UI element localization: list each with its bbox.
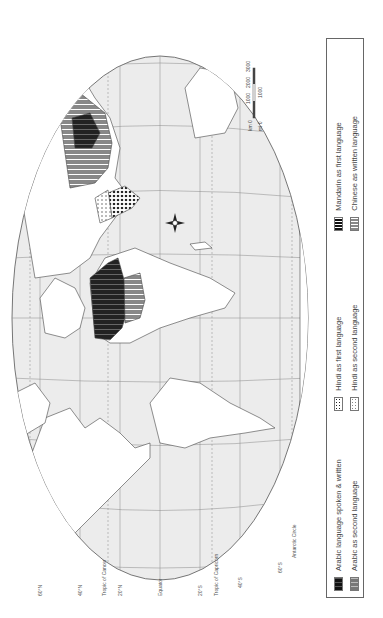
arabic-second-swatch-icon xyxy=(350,577,359,591)
scale-mi-label: mi 0 xyxy=(257,121,263,131)
scale-km-3000: 3000 xyxy=(245,61,251,72)
lat-label-20n: 20°N xyxy=(117,584,123,596)
mandarin-first-swatch-icon xyxy=(334,217,343,231)
legend-item-chinese-written: Chinese as written language xyxy=(346,50,362,230)
scale-km-2000: 2000 xyxy=(245,77,251,88)
legend-label: Arabic as second language xyxy=(350,481,359,571)
scale-km-label: km 0 xyxy=(247,120,253,131)
lat-label-60n: 60°N xyxy=(37,584,43,596)
lat-label-60s: 60°S xyxy=(277,561,283,573)
lat-label-equator: Equator xyxy=(157,578,163,596)
legend-item-arabic-second: Arabic as second language xyxy=(346,411,362,591)
legend-label: Arabic language spoken & written xyxy=(334,459,343,571)
chinese-written-swatch-icon xyxy=(350,217,359,231)
antarctica xyxy=(300,118,320,518)
legend-item-hindi-first: Hindi as first language xyxy=(330,231,346,411)
lat-label-40n: 40°N xyxy=(77,584,83,596)
lat-label-tropic-capricorn: Tropic of Capricorn xyxy=(213,553,219,596)
legend-label: Hindi as first language xyxy=(334,317,343,391)
lat-label-tropic-cancer: Tropic of Cancer xyxy=(101,559,107,596)
lat-label-40s: 40°S xyxy=(237,576,243,588)
legend-item-mandarin-first: Mandarin as first language xyxy=(330,50,346,230)
lat-label-20s: 20°S xyxy=(197,584,203,596)
legend-label: Hindi as second language xyxy=(350,305,359,391)
lat-label-antarctic-circle: Antarctic Circle xyxy=(291,524,297,558)
map-canvas: 60°N 40°N Tropic of Cancer 20°N Equator … xyxy=(0,0,383,618)
arabic-spoken-swatch-icon xyxy=(334,577,343,591)
legend-label: Chinese as written language xyxy=(350,116,359,211)
map-legend: Arabic language spoken & written Hindi a… xyxy=(326,38,364,598)
hindi-first-swatch-icon xyxy=(334,397,343,411)
legend-item-hindi-second: Hindi as second language xyxy=(346,231,362,411)
scale-mi-1000: 1000 xyxy=(257,87,263,98)
legend-label: Mandarin as first language xyxy=(334,122,343,210)
scale-km-1000: 1000 xyxy=(245,93,251,104)
legend-item-arabic-spoken: Arabic language spoken & written xyxy=(330,411,346,591)
hindi-second-swatch-icon xyxy=(350,397,359,411)
